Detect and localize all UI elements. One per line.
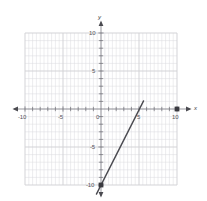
graph-canvas <box>0 0 207 201</box>
y-tick-label-pos10: 10 <box>89 30 95 36</box>
y-axis-arrow-up-icon <box>99 21 104 27</box>
data-point-marker-10-0 <box>175 107 180 112</box>
x-axis-label: x <box>194 105 197 111</box>
data-point-marker-0-neg10 <box>99 183 104 188</box>
x-tick-label-neg5: -5 <box>58 114 63 120</box>
y-tick-label-neg5: -5 <box>90 144 95 150</box>
x-tick-label-pos10: 10 <box>172 114 178 120</box>
x-tick-label-pos5: 5 <box>137 114 140 120</box>
x-axis-arrow-right-icon <box>186 107 192 112</box>
y-tick-label-neg10: -10 <box>86 182 94 188</box>
y-tick-label-pos5: 5 <box>92 68 95 74</box>
x-axis <box>13 106 192 111</box>
y-axis-arrow-down-icon <box>99 192 104 198</box>
x-tick-label-neg10: -10 <box>18 114 26 120</box>
y-axis-label: y <box>98 14 101 20</box>
x-axis-arrow-left-icon <box>13 107 19 112</box>
coordinate-graph: -10 -5 0 5 10 10 5 -5 -10 y x <box>0 0 207 201</box>
x-tick-label-origin: 0 <box>96 114 99 120</box>
